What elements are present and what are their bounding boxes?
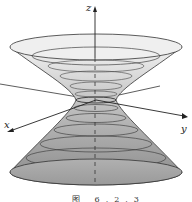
x-axis-label: x	[4, 119, 10, 130]
z-arrow-icon	[93, 6, 97, 12]
y-axis-label: y	[181, 123, 187, 134]
hyperboloid-figure	[0, 0, 192, 202]
y-arrow-icon	[182, 113, 188, 119]
figure-caption: 图 6.2.3	[72, 193, 145, 202]
z-axis-label: z	[86, 2, 91, 13]
bottom-rim	[10, 159, 182, 185]
